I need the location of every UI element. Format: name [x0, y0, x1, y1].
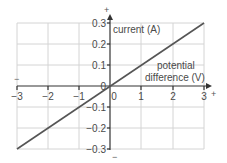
svg-text:2: 2: [170, 91, 176, 102]
svg-text:0: 0: [100, 81, 106, 92]
y-positive-sign: +: [104, 5, 109, 15]
x-tick-labels: −3 −2 −1 0 1 2 3: [11, 91, 207, 102]
svg-text:−0.1: −0.1: [86, 102, 106, 113]
svg-text:−1: −1: [73, 91, 85, 102]
x-axis-label-line1: potential: [157, 60, 195, 71]
x-axis-label-line2: difference (V): [145, 72, 205, 83]
svg-text:1: 1: [138, 91, 144, 102]
svg-text:0.1: 0.1: [92, 60, 106, 71]
svg-text:−0.2: −0.2: [86, 123, 106, 134]
iv-chart: −3 −2 −1 0 1 2 3 0.3 0.2 0.1 0 −0.1 −0.2…: [0, 0, 227, 163]
y-negative-sign: −: [112, 152, 117, 162]
svg-text:−0.3: −0.3: [86, 144, 106, 155]
svg-text:0.3: 0.3: [92, 18, 106, 29]
y-axis-label: current (A): [113, 24, 160, 35]
svg-text:3: 3: [201, 91, 207, 102]
svg-text:0.2: 0.2: [92, 39, 106, 50]
svg-text:−3: −3: [11, 91, 23, 102]
svg-text:−2: −2: [42, 91, 54, 102]
x-positive-sign: +: [211, 89, 216, 99]
svg-text:0: 0: [111, 91, 117, 102]
x-negative-sign: −: [14, 74, 19, 84]
